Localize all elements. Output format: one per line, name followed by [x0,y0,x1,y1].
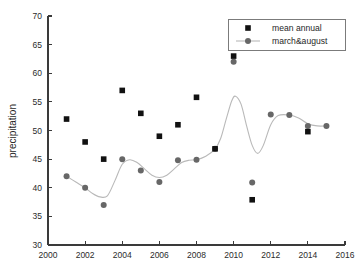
y-tick-label: 35 [33,211,43,221]
x-tick-label: 2016 [336,250,355,260]
legend-marker-square [245,25,251,31]
data-point-march-august [64,173,70,179]
data-point-mean-annual [305,129,311,135]
data-point-mean-annual [138,111,144,117]
y-tick-label: 70 [33,11,43,21]
x-tick-label: 2014 [298,250,317,260]
data-point-mean-annual [119,88,125,94]
legend-label: march&august [272,36,328,46]
legend-marker-circle [245,38,251,44]
y-tick-label: 60 [33,68,43,78]
data-point-mean-annual [212,146,218,152]
x-tick-label: 2000 [39,250,58,260]
data-point-mean-annual [101,156,107,162]
chart-canvas: 303540455055606570 200020022004200620082… [0,0,363,271]
data-point-march-august [286,112,292,118]
y-tick-label: 30 [33,240,43,250]
x-tick-label: 2008 [187,250,206,260]
data-point-mean-annual [82,139,88,145]
data-point-march-august [249,180,255,186]
data-point-march-august [323,123,329,129]
y-tick-label: 65 [33,40,43,50]
data-point-mean-annual [231,53,237,59]
chart-legend[interactable]: mean annualmarch&august [228,19,345,50]
y-tick-label: 40 [33,183,43,193]
data-point-march-august [268,111,274,117]
data-point-march-august [101,202,107,208]
data-point-march-august [175,157,181,163]
data-point-march-august [156,179,162,185]
data-point-mean-annual [194,95,200,101]
x-tick-label: 2002 [76,250,95,260]
y-tick-label: 50 [33,126,43,136]
data-point-march-august [194,157,200,163]
x-tick-label: 2010 [224,250,243,260]
x-tick-label: 2004 [113,250,132,260]
data-point-march-august [82,185,88,191]
data-point-mean-annual [249,197,255,203]
y-tick-label: 55 [33,97,43,107]
data-point-mean-annual [64,116,70,122]
data-point-mean-annual [157,133,163,139]
data-point-mean-annual [175,122,181,128]
data-point-march-august [231,59,237,65]
data-point-march-august [119,156,125,162]
y-axis-title: precipitation [7,104,18,158]
x-tick-label: 2012 [261,250,280,260]
legend-label: mean annual [272,23,322,33]
x-tick-label: 2006 [150,250,169,260]
precipitation-chart-figure: 303540455055606570 200020022004200620082… [0,0,363,271]
y-tick-label: 45 [33,154,43,164]
data-point-march-august [305,123,311,129]
data-point-march-august [138,168,144,174]
